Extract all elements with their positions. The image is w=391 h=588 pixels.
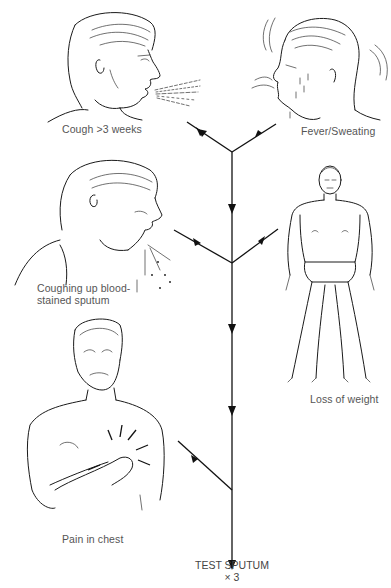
flow-connector-lines [174,122,278,568]
cough-figure-icon [48,13,200,122]
symptom-label-blood-sputum: Coughing up blood-stained sputum [37,282,137,306]
symptom-label-cough: Cough >3 weeks [62,123,142,135]
tb-symptom-diagram: Cough >3 weeks Fever/Sweating Coughing u… [0,0,391,588]
flow-arrowheads [191,127,265,570]
symptom-label-fever: Fever/Sweating [301,125,375,137]
outcome-label: TEST SPUTUM × 3 [182,559,282,583]
coughing-blood-figure-icon [15,160,171,292]
fever-figure-icon [252,18,387,120]
outcome-action: TEST SPUTUM [182,559,282,571]
symptom-label-weight-loss: Loss of weight [310,393,379,405]
outcome-repeat-count: × 3 [182,571,282,583]
symptom-label-chest-pain: Pain in chest [62,533,123,545]
chest-pain-figure-icon [27,319,164,510]
weight-loss-figure-icon [286,166,374,382]
